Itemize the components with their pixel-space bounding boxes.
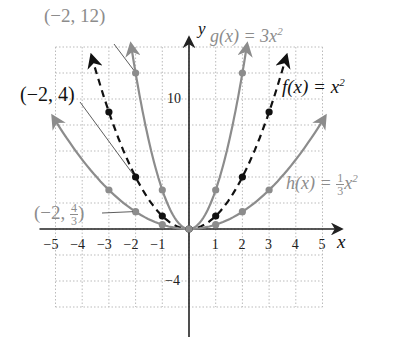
x-axis-label: x bbox=[337, 232, 345, 251]
legend-g-exp: 2 bbox=[277, 25, 283, 37]
data-point bbox=[159, 186, 166, 193]
data-point bbox=[212, 186, 219, 193]
data-point bbox=[159, 212, 166, 219]
data-point bbox=[132, 208, 139, 215]
x-tick-label: −5 bbox=[44, 237, 59, 253]
data-point bbox=[239, 69, 246, 76]
legend-h: h(x) = 13x2 bbox=[286, 172, 358, 197]
x-tick-label: −2 bbox=[124, 237, 139, 253]
data-point bbox=[132, 69, 139, 76]
fraction-den: 3 bbox=[336, 185, 344, 197]
x-tick-label: −3 bbox=[97, 237, 112, 253]
data-point bbox=[185, 225, 192, 232]
data-point bbox=[212, 221, 219, 228]
data-point bbox=[159, 221, 166, 228]
legend-f-exp: 2 bbox=[339, 76, 345, 88]
y-axis-label: y bbox=[198, 20, 206, 37]
fraction-den: 3 bbox=[70, 215, 78, 227]
data-point bbox=[105, 108, 112, 115]
annotation-g: (−2, 12) bbox=[44, 6, 105, 25]
x-tick-label: −1 bbox=[150, 237, 165, 253]
annotation-h-fraction: 43 bbox=[70, 202, 78, 227]
x-tick-label: 3 bbox=[265, 237, 272, 253]
annotation-h: (−2, 43) bbox=[34, 202, 84, 227]
data-point bbox=[266, 186, 273, 193]
x-tick-label: −4 bbox=[70, 237, 85, 253]
legend-h-exp: 2 bbox=[352, 172, 358, 184]
x-tick-label: 4 bbox=[292, 237, 299, 253]
leader-h bbox=[102, 212, 133, 213]
data-point bbox=[266, 108, 273, 115]
legend-f-text: f(x) = x bbox=[282, 76, 339, 97]
annotation-h-prefix: (−2, bbox=[34, 202, 70, 223]
annotation-h-suffix: ) bbox=[78, 202, 84, 223]
legend-g-text: g(x) = 3x bbox=[210, 26, 277, 46]
annotation-f: (−2, 4) bbox=[20, 84, 75, 104]
legend-f: f(x) = x2 bbox=[282, 77, 345, 96]
chart: (−2, 12) (−2, 4) (−2, 43) g(x) = 3x2 f(x… bbox=[0, 0, 400, 352]
y-tick-label: 10 bbox=[167, 91, 181, 107]
x-tick-label: 5 bbox=[319, 237, 326, 253]
legend-g: g(x) = 3x2 bbox=[210, 26, 283, 45]
x-tick-label: 1 bbox=[212, 237, 219, 253]
data-point bbox=[212, 212, 219, 219]
y-tick-label: −4 bbox=[165, 273, 180, 289]
x-tick-label: 2 bbox=[238, 237, 245, 253]
data-point bbox=[239, 173, 246, 180]
data-point bbox=[105, 186, 112, 193]
data-point bbox=[239, 208, 246, 215]
legend-h-text: h(x) = bbox=[286, 173, 336, 193]
legend-h-fraction: 13 bbox=[336, 172, 344, 197]
legend-h-var: x bbox=[344, 173, 352, 193]
